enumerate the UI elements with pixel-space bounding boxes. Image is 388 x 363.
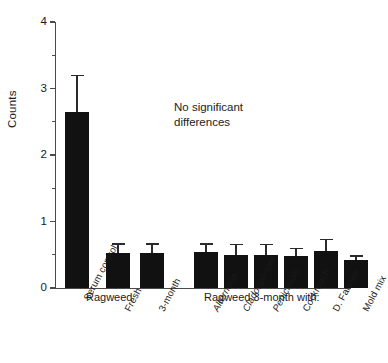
y-tick-minor [52,188,56,189]
error-bar-stem [235,244,236,255]
error-bar-stem [325,239,326,251]
error-bar-stem [151,243,152,252]
bar [140,253,164,288]
plot-area: 01234 [55,22,351,288]
y-tick-label: 0 [41,282,47,294]
error-bar-stem [76,75,77,112]
y-axis-line [55,22,56,288]
y-axis-label: Counts [6,38,22,128]
y-tick-major [50,21,55,22]
x-axis-line [55,288,351,289]
y-tick-major [50,88,55,89]
error-bar [65,75,89,112]
bar [65,112,89,288]
error-bar [344,255,368,260]
error-bar [140,243,164,252]
y-tick-minor [52,55,56,56]
y-tick-minor [52,254,56,255]
y-tick-major [50,287,55,288]
bar [194,252,218,288]
error-bar-stem [265,244,266,255]
y-tick-label: 1 [41,216,47,228]
y-tick-major [50,154,55,155]
error-bar-cap [260,244,273,245]
error-bar [224,244,248,255]
error-bar-cap [200,243,213,244]
error-bar [194,243,218,252]
chart-annotation: No significant differences [174,100,243,130]
error-bar-cap [230,244,243,245]
error-bar-cap [146,243,159,244]
error-bar [314,239,338,251]
y-tick-minor [52,121,56,122]
error-bar-cap [71,75,84,76]
group-label: Ragweed 3-month with: [204,291,320,303]
error-bar [254,244,278,255]
error-bar-cap [320,239,333,240]
y-tick-label: 4 [41,16,47,28]
y-tick-label: 3 [41,83,47,95]
group-label: Ragweed [86,291,132,303]
y-tick-label: 2 [41,149,47,161]
y-tick-major [50,221,55,222]
error-bar [284,248,308,256]
error-bar-cap [290,248,303,249]
error-bar-cap [350,255,363,256]
